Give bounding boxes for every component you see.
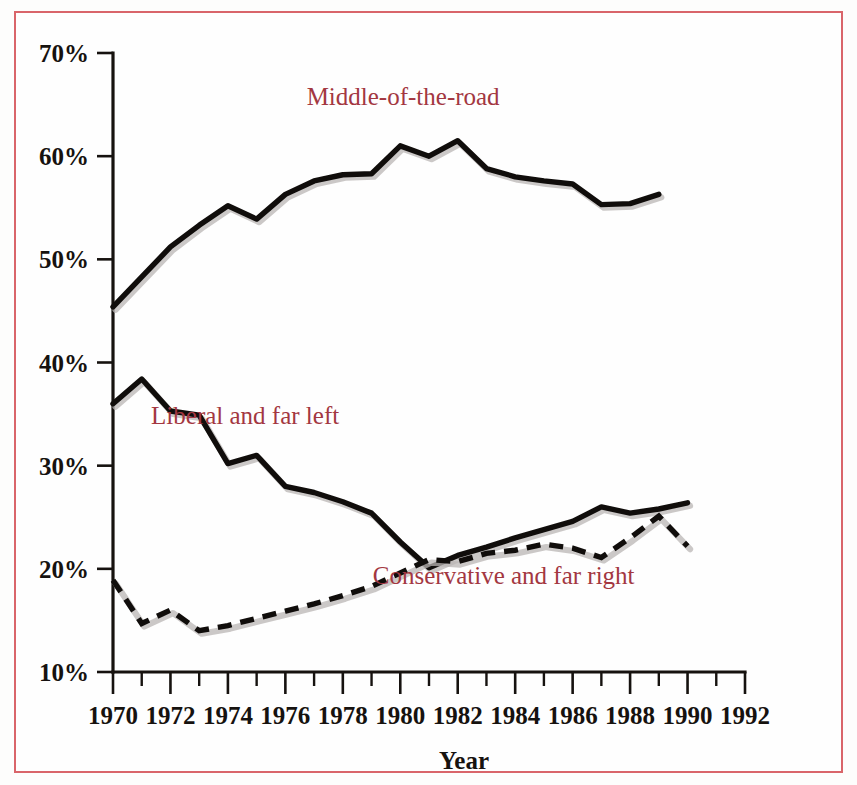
series-annotation-1: Liberal and far left: [151, 402, 339, 429]
series-annotation-0: Middle-of-the-road: [307, 83, 500, 110]
x-tick-label: 1978: [318, 702, 368, 729]
y-tick-label: 30%: [39, 453, 89, 480]
x-tick-label: 1982: [433, 702, 483, 729]
x-tick-label: 1972: [145, 702, 195, 729]
x-axis-title: Year: [439, 747, 489, 774]
x-tick-label: 1992: [720, 702, 770, 729]
y-tick-label: 50%: [39, 246, 89, 273]
x-tick-label: 1986: [548, 702, 598, 729]
chart-figure: 70%60%50%40%30%20%10%1970197219741976197…: [0, 0, 857, 785]
x-tick-label: 1990: [663, 702, 713, 729]
x-tick-label: 1988: [605, 702, 655, 729]
x-tick-label: 1984: [490, 702, 541, 729]
x-tick-label: 1974: [203, 702, 254, 729]
x-tick-label: 1970: [88, 702, 138, 729]
y-tick-label: 10%: [39, 659, 89, 686]
y-tick-label: 40%: [39, 350, 89, 377]
y-tick-label: 60%: [39, 143, 89, 170]
line-chart-plot: 70%60%50%40%30%20%10%1970197219741976197…: [0, 0, 857, 785]
y-tick-label: 70%: [39, 40, 89, 67]
y-tick-label: 20%: [39, 556, 89, 583]
x-tick-label: 1976: [260, 702, 310, 729]
series-annotation-2: Conservative and far right: [373, 562, 635, 589]
x-tick-label: 1980: [375, 702, 425, 729]
